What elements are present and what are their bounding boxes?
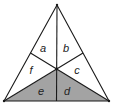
median-from-apex xyxy=(57,5,58,101)
label-b: b xyxy=(63,42,69,54)
vertex-bottom-left-dot xyxy=(3,100,5,102)
vertex-bottom-right-dot xyxy=(108,100,110,102)
label-d: d xyxy=(64,85,71,97)
triangle-medians-diagram: a b c d e f xyxy=(0,0,118,106)
label-e: e xyxy=(38,85,44,97)
label-c: c xyxy=(74,64,80,76)
vertex-apex-dot xyxy=(56,4,58,6)
centroid-dot xyxy=(55,68,58,71)
label-a: a xyxy=(40,42,46,54)
